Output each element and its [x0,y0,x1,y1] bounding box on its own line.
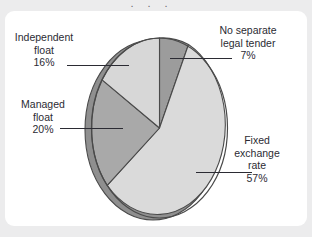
pie-label-no-separate-legal-tender-line1: No separate [219,24,276,36]
pie-label-fixed-exchange-rate-line1: Fixed [244,134,270,146]
pie-value-fixed-exchange-rate: 57% [228,172,286,185]
pie-label-no-separate-legal-tender-line2: legal tender [221,37,276,49]
pie-label-fixed-exchange-rate: Fixed exchange rate 57% [228,134,286,184]
pie-label-no-separate-legal-tender: No separate legal tender 7% [212,24,284,62]
pie-label-fixed-exchange-rate-line3: rate [248,159,266,171]
pie-value-no-separate-legal-tender: 7% [212,49,284,62]
pie-label-managed-float-line1: Managed [21,98,65,110]
pie-label-independent-float-line1: Independent [15,31,73,43]
pie-label-managed-float-line2: float [33,111,53,123]
figure-root: ... [0,0,312,237]
pie-label-fixed-exchange-rate-line2: exchange [234,147,280,159]
pie-label-managed-float: Managed float 20% [14,98,72,136]
pie-value-independent-float: 16% [11,56,77,69]
pie-label-independent-float: Independent float 16% [11,31,77,69]
pie-value-managed-float: 20% [14,123,72,136]
pie-label-independent-float-line2: float [34,44,54,56]
